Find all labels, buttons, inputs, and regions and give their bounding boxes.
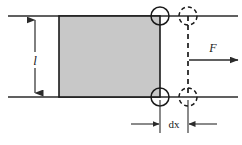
sliding-block xyxy=(59,16,160,97)
figure-container: l F dx xyxy=(0,0,242,145)
force-label: F xyxy=(208,41,217,55)
mechanics-diagram: l F dx xyxy=(0,0,242,145)
displacement-dimension: dx xyxy=(131,100,217,133)
length-label: l xyxy=(33,53,37,68)
dx-label: dx xyxy=(169,118,181,130)
length-dimension: l xyxy=(28,20,42,93)
force-vector: F xyxy=(189,41,238,60)
